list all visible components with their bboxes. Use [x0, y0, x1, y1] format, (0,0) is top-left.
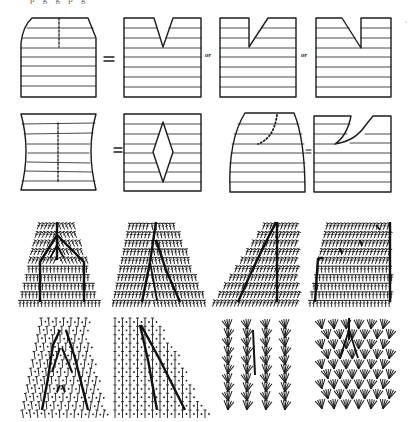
shaping-diagram: or or [0, 0, 413, 422]
panel-diamond-opening [124, 114, 201, 191]
panel-fan-stitch-columns [222, 318, 291, 410]
panel-tapered-top-with-dart [21, 18, 96, 97]
panel-symmetric-branching-chart [18, 222, 101, 307]
panel-fan-stitch-branching [315, 318, 396, 410]
panel-single-diagonal-chart [211, 222, 302, 307]
panel-offset-branching-chart [111, 222, 208, 307]
panel-mesh-chevron-chart [21, 318, 110, 419]
equals-sign [306, 150, 311, 153]
equals-sign [104, 57, 114, 61]
panel-hourglass-with-dart [21, 114, 96, 190]
panel-center-v-notch [124, 18, 201, 97]
or-label: or [205, 51, 212, 59]
equals-sign [114, 148, 122, 152]
panel-right-slant-notch [316, 18, 391, 97]
or-label: or [301, 51, 308, 59]
panel-left-slant-notch [220, 18, 296, 97]
panel-curved-notch [314, 116, 391, 192]
panel-stepped-increase-chart [308, 222, 394, 307]
scan-speck [405, 21, 407, 23]
panel-mesh-diagonal-chart [114, 318, 210, 418]
panel-rounded-top-with-curved-dart [230, 113, 305, 192]
